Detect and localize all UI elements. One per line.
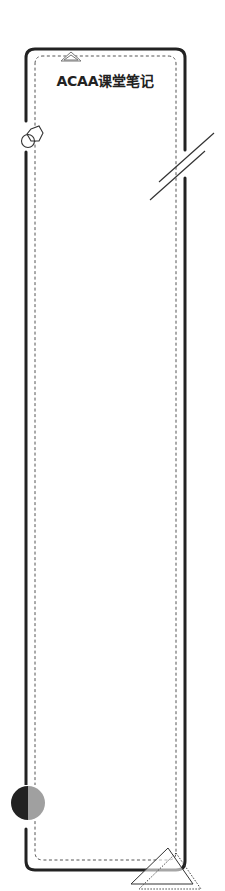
inner-dashed-frame	[35, 56, 176, 860]
hexagon-circle-icon	[22, 126, 44, 148]
diagonal-slashes-icon	[150, 133, 214, 200]
outer-frame	[26, 49, 185, 870]
page-title: ACAA课堂笔记	[0, 70, 225, 90]
half-circle-icon	[10, 785, 46, 821]
title-text: ACAA课堂笔记	[56, 70, 153, 90]
notes-card-frame	[0, 0, 225, 891]
